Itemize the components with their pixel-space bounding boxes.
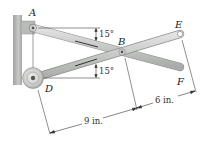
wall [13, 15, 22, 85]
angle-indicator-lower [95, 65, 97, 78]
pin-a [29, 24, 36, 31]
pulley-d [23, 68, 44, 89]
dimension-label-be: 6 in. [155, 95, 174, 105]
angle-indicator-upper [95, 29, 97, 41]
mechanism-diagram: 15° 15° A B E F D 9 in. [0, 0, 205, 145]
pin-b [119, 49, 125, 55]
pin-e [177, 31, 182, 36]
label-d: D [44, 83, 53, 94]
dimension-label-db: 9 in. [84, 116, 103, 126]
label-f: F [176, 76, 185, 87]
label-e: E [174, 19, 183, 30]
label-a: A [28, 7, 36, 18]
angle-label-lower: 15° [99, 66, 114, 76]
angle-label-upper: 15° [99, 29, 114, 39]
label-b: B [117, 36, 125, 47]
